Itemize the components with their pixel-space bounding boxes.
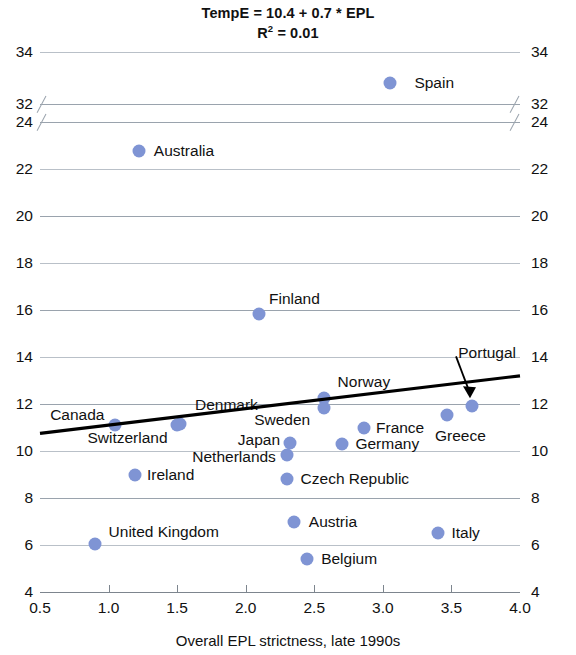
y-tick-label-14-r: 14 (531, 349, 571, 365)
x-tick-label-2.0: 2.0 (235, 600, 257, 616)
x-tick-label-3.5: 3.5 (441, 600, 463, 616)
y-tick-label-34-r: 34 (531, 44, 571, 60)
chart-title: TempE = 10.4 + 0.7 * EPL (0, 4, 576, 23)
x-tick-label-4.0: 4.0 (509, 600, 531, 616)
chart-subtitle: R2 = 0.01 (0, 23, 576, 42)
y-tick-label-6-r: 6 (531, 537, 571, 553)
y-tick-label-22-l: 22 (0, 161, 33, 177)
x-tick-label-0.5: 0.5 (29, 600, 51, 616)
y-tick-label-16-r: 16 (531, 302, 571, 318)
y-tick-label-10-r: 10 (531, 443, 571, 459)
x-tick-1.0 (109, 585, 110, 592)
y-tick-label-20-l: 20 (0, 208, 33, 224)
portugal-annotation-arrow (40, 52, 520, 592)
x-tick-1.5 (177, 585, 178, 592)
y-tick-label-6-l: 6 (0, 537, 33, 553)
y-tick-label-32-l: 32 (0, 96, 33, 112)
y-tick-label-4-l: 4 (0, 584, 33, 600)
y-tick-label-20-r: 20 (531, 208, 571, 224)
y-tick-label-12-r: 12 (531, 396, 571, 412)
y-tick-label-18-r: 18 (531, 255, 571, 271)
x-tick-3.5 (451, 585, 452, 592)
scatter-chart: TempE = 10.4 + 0.7 * EPL R2 = 0.01 Spain… (0, 0, 576, 655)
x-axis-title: Overall EPL strictness, late 1990s (0, 632, 576, 649)
y-tick-label-24-r: 24 (531, 114, 571, 130)
y-tick-label-4-r: 4 (531, 584, 571, 600)
y-tick-label-34-l: 34 (0, 44, 33, 60)
x-tick-2.0 (246, 585, 247, 592)
x-tick-label-2.5: 2.5 (304, 600, 326, 616)
y-tick-label-18-l: 18 (0, 255, 33, 271)
y-tick-label-14-l: 14 (0, 349, 33, 365)
r-squared-value: = 0.01 (273, 24, 318, 40)
y-tick-label-16-l: 16 (0, 302, 33, 318)
gridline-4 (40, 592, 520, 593)
y-tick-label-8-l: 8 (0, 490, 33, 506)
y-tick-label-8-r: 8 (531, 490, 571, 506)
x-tick-3.0 (383, 585, 384, 592)
y-tick-label-12-l: 12 (0, 396, 33, 412)
x-tick-label-1.0: 1.0 (98, 600, 120, 616)
x-tick-label-3.0: 3.0 (372, 600, 394, 616)
y-tick-label-10-l: 10 (0, 443, 33, 459)
chart-title-block: TempE = 10.4 + 0.7 * EPL R2 = 0.01 (0, 4, 576, 42)
plot-area: SpainAustraliaFinlandNorwayPortugalGreec… (40, 52, 520, 592)
r-squared-prefix: R (257, 24, 268, 40)
y-tick-label-32-r: 32 (531, 96, 571, 112)
x-tick-label-1.5: 1.5 (166, 600, 188, 616)
y-tick-label-24-l: 24 (0, 114, 33, 130)
x-tick-2.5 (314, 585, 315, 592)
y-tick-label-22-r: 22 (531, 161, 571, 177)
